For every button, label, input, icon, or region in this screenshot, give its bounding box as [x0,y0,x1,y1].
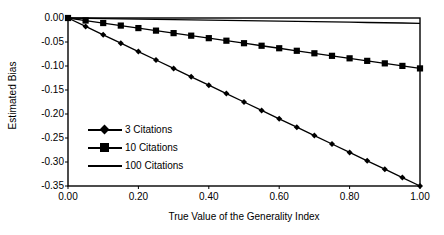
data-point-marker [399,175,405,181]
data-point-marker [311,133,317,139]
data-point-marker [118,22,124,28]
data-point-marker [347,55,353,61]
data-point-marker [171,65,177,71]
data-point-marker [382,60,388,66]
legend-label: 3 Citations [122,125,172,135]
data-point-marker [223,38,229,44]
legend-item-100-citations: 100 Citations [88,157,228,175]
x-axis-title: True Value of the Generality Index [68,211,420,222]
data-point-marker [294,48,300,54]
data-point-marker [135,49,141,55]
data-point-marker [135,25,141,31]
legend-marker-line-icon [88,159,122,173]
legend-item-3-citations: 3 Citations [88,121,228,139]
data-point-marker [417,183,423,189]
data-point-marker [100,20,106,26]
data-point-marker [153,57,159,63]
data-point-marker [347,149,353,155]
data-point-marker [259,43,265,49]
data-point-marker [294,124,300,130]
data-point-marker [241,99,247,105]
data-point-marker [364,158,370,164]
data-point-marker [206,82,212,88]
data-point-marker [241,40,247,46]
legend-label: 10 Citations [122,143,178,153]
data-point-marker [259,107,265,113]
legend-item-10-citations: 10 Citations [88,139,228,157]
legend-marker-diamond-icon [88,123,122,137]
data-point-marker [118,40,124,46]
data-point-marker [382,166,388,172]
legend-marker-square-icon [88,141,122,155]
chart-legend: 3 Citations 10 Citations 100 Citations [88,121,228,175]
data-point-marker [188,74,194,80]
data-point-marker [364,58,370,64]
legend-label: 100 Citations [122,161,183,171]
data-point-marker [153,28,159,34]
data-point-marker [417,65,423,71]
chart-figure: Estimated Bias 0.00-0.05-0.10-0.15-0.20-… [0,0,444,235]
plot-area [0,0,444,235]
data-point-marker [206,35,212,41]
data-point-marker [188,33,194,39]
data-point-marker [329,53,335,59]
data-point-marker [311,50,317,56]
data-point-marker [276,116,282,122]
data-point-marker [100,32,106,38]
data-point-marker [223,91,229,97]
data-point-marker [329,141,335,147]
data-point-marker [276,45,282,51]
data-point-marker [83,23,89,29]
data-point-marker [171,30,177,36]
data-point-marker [399,63,405,69]
